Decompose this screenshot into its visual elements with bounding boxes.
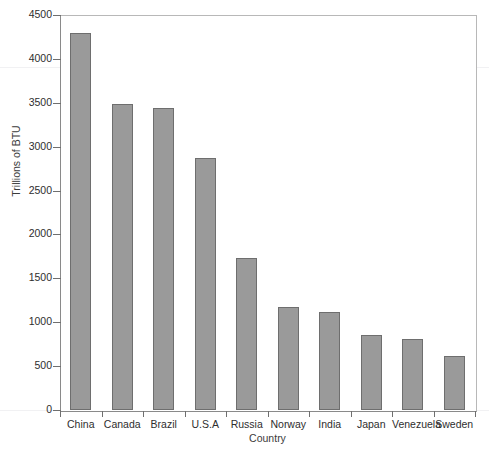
x-axis-category-label: India bbox=[309, 418, 351, 430]
bar bbox=[361, 335, 382, 410]
y-axis-tick bbox=[53, 234, 61, 235]
bar bbox=[402, 339, 423, 410]
x-axis-tick bbox=[392, 411, 393, 417]
x-axis-tick bbox=[60, 411, 61, 417]
x-axis-category-label: Sweden bbox=[434, 418, 476, 430]
x-axis-category-label: Japan bbox=[351, 418, 393, 430]
x-axis-category-label: Venezuela bbox=[392, 418, 434, 430]
x-axis-tick bbox=[143, 411, 144, 417]
y-axis-tick-label: 2500 bbox=[6, 184, 52, 196]
x-axis-category-label: Canada bbox=[102, 418, 144, 430]
x-axis-tick bbox=[185, 411, 186, 417]
y-axis-tick-label: 4500 bbox=[6, 8, 52, 20]
bar bbox=[444, 356, 465, 410]
bar bbox=[319, 312, 340, 410]
y-axis-tick-label: 3500 bbox=[6, 96, 52, 108]
bar bbox=[195, 158, 216, 410]
x-axis-category-label: Brazil bbox=[143, 418, 185, 430]
x-axis-tick bbox=[351, 411, 352, 417]
bar bbox=[236, 258, 257, 410]
y-axis-tick-label: 1500 bbox=[6, 271, 52, 283]
x-axis-category-label: China bbox=[60, 418, 102, 430]
y-axis-tick bbox=[53, 59, 61, 60]
y-axis-tick bbox=[53, 191, 61, 192]
bar bbox=[278, 307, 299, 410]
y-axis-tick-label: 1000 bbox=[6, 315, 52, 327]
y-axis-tick bbox=[53, 366, 61, 367]
y-axis-tick bbox=[53, 15, 61, 16]
x-axis-tick bbox=[434, 411, 435, 417]
x-axis-category-label: Russia bbox=[226, 418, 268, 430]
y-axis-tick-label: 0 bbox=[6, 403, 52, 415]
bar bbox=[153, 108, 174, 410]
x-axis-category-label: Norway bbox=[268, 418, 310, 430]
y-axis-tick-label: 2000 bbox=[6, 227, 52, 239]
y-axis-tick bbox=[53, 278, 61, 279]
y-axis-tick-label: 3000 bbox=[6, 140, 52, 152]
bar bbox=[70, 33, 91, 410]
bar-chart: Trillions of BTU 05001000150020002500300… bbox=[0, 0, 489, 452]
y-axis-tick bbox=[53, 322, 61, 323]
y-axis-tick bbox=[53, 147, 61, 148]
x-axis-tick bbox=[102, 411, 103, 417]
y-axis-tick-label: 500 bbox=[6, 359, 52, 371]
x-axis-tick bbox=[309, 411, 310, 417]
x-axis-tick bbox=[475, 411, 476, 417]
x-axis-tick bbox=[226, 411, 227, 417]
x-axis-tick bbox=[268, 411, 269, 417]
x-axis-category-label: U.S.A bbox=[185, 418, 227, 430]
y-axis-title: Trillions of BTU bbox=[10, 96, 22, 226]
y-axis-tick-label: 4000 bbox=[6, 52, 52, 64]
y-axis-tick bbox=[53, 103, 61, 104]
bar bbox=[112, 104, 133, 410]
x-axis-title: Country bbox=[60, 432, 475, 444]
